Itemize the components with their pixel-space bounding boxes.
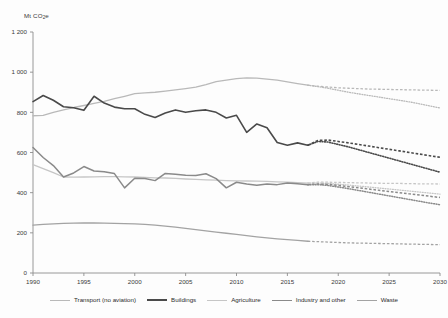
series-lines	[33, 78, 440, 245]
series-waste	[33, 223, 440, 245]
legend-line-swatch	[147, 299, 167, 301]
legend-item-label: Agriculture	[231, 297, 261, 303]
x-tick-label: 1995	[77, 278, 91, 285]
legend-item-label: Industry and other	[296, 297, 346, 303]
series-buildings	[33, 95, 440, 172]
x-tick-label: 2015	[280, 278, 294, 285]
series-industry-and-other	[33, 147, 440, 204]
legend-item-label: Waste	[381, 297, 398, 303]
legend-item-label: Transport (no aviation)	[74, 297, 136, 303]
y-tick-label: 1 000	[12, 68, 28, 75]
x-tick-label: 2000	[128, 278, 142, 285]
x-tick-label: 2020	[331, 278, 345, 285]
y-tick-label: 600	[17, 149, 28, 156]
legend-item-transport-no-aviation[interactable]: Transport (no aviation)	[50, 297, 136, 303]
plot-area: 1 2001 0008006004002000 1990199520002005…	[0, 0, 448, 318]
legend-line-swatch	[357, 300, 377, 301]
y-tick-label: 200	[17, 229, 28, 236]
x-tick-label: 2025	[382, 278, 396, 285]
x-tick-label: 1990	[26, 278, 40, 285]
x-tick-label: 2010	[230, 278, 244, 285]
axis-lines	[33, 32, 440, 273]
y-tick-label: 800	[17, 109, 28, 116]
y-tick-label: 1 200	[12, 28, 28, 35]
legend-item-label: Buildings	[171, 297, 196, 303]
y-axis-ticks: 1 2001 0008006004002000	[12, 28, 33, 276]
x-axis-ticks: 199019952000200520102015202020252030	[26, 273, 447, 285]
x-tick-label: 2005	[179, 278, 193, 285]
legend-item-agriculture[interactable]: Agriculture	[207, 297, 261, 303]
legend-item-industry-and-other[interactable]: Industry and other	[272, 297, 346, 303]
legend-item-waste[interactable]: Waste	[357, 297, 398, 303]
legend-line-swatch	[50, 300, 70, 301]
y-tick-label: 0	[24, 269, 28, 276]
emissions-line-chart: Mt CO2e 1 2001 0008006004002000 19901995…	[0, 0, 448, 318]
legend-item-buildings[interactable]: Buildings	[147, 297, 196, 303]
x-tick-label: 2030	[433, 278, 447, 285]
legend-line-swatch	[207, 300, 227, 301]
chart-legend: Transport (no aviation)BuildingsAgricult…	[0, 297, 448, 303]
legend-line-swatch	[272, 300, 292, 301]
y-tick-label: 400	[17, 189, 28, 196]
